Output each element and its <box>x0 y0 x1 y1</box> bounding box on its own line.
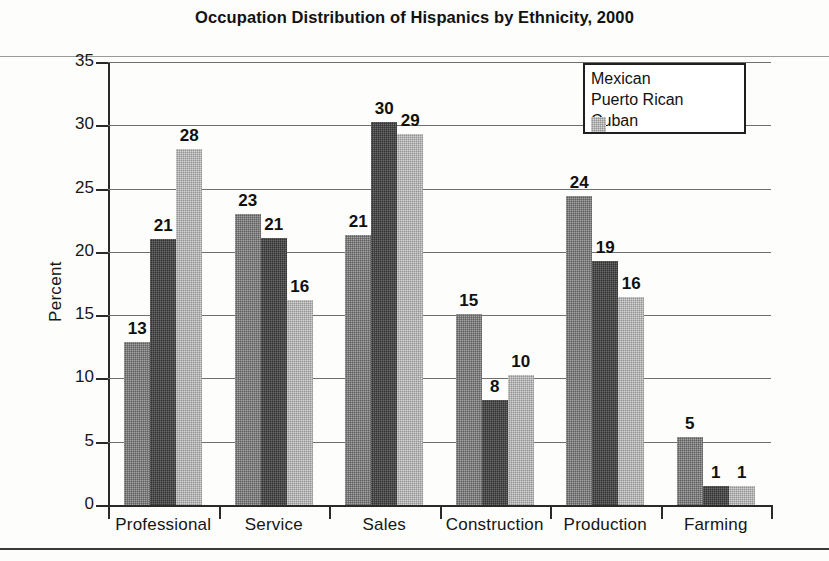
bar-value-label: 15 <box>459 291 478 311</box>
bar-value-label: 10 <box>511 352 530 372</box>
bar-group: 232116 <box>235 62 313 505</box>
y-axis-tick-label: 30 <box>52 114 94 134</box>
bar-value-label: 16 <box>622 274 641 294</box>
bar-value-label: 21 <box>264 215 283 235</box>
x-axis-tick <box>771 505 773 519</box>
x-axis-tick <box>550 505 552 519</box>
bar <box>618 297 644 505</box>
bar <box>482 400 508 505</box>
bar <box>371 122 397 506</box>
x-axis-category-label: Farming <box>684 515 748 535</box>
x-axis-tick <box>440 505 442 519</box>
y-axis-tick-label: 20 <box>52 241 94 261</box>
bar-value-label: 24 <box>570 173 589 193</box>
bar-value-label: 16 <box>290 277 309 297</box>
bar <box>176 149 202 505</box>
x-axis-category-label: Sales <box>362 515 406 535</box>
bar <box>261 238 287 505</box>
bar <box>124 342 150 505</box>
y-axis-tick-label: 10 <box>52 367 94 387</box>
y-axis-tick <box>96 315 108 317</box>
bar <box>729 486 755 505</box>
x-axis-category-label: Professional <box>115 515 211 535</box>
legend-item-label: Mexican <box>591 71 651 87</box>
legend-item: Puerto Rican <box>591 89 739 110</box>
y-axis-tick <box>96 505 108 507</box>
bar-value-label: 23 <box>238 191 257 211</box>
legend-swatch-icon <box>591 117 606 132</box>
bar <box>566 196 592 505</box>
y-axis-tick-label: 0 <box>52 494 94 514</box>
bar <box>397 134 423 505</box>
x-axis-tick <box>329 505 331 519</box>
gridline <box>108 378 771 379</box>
y-axis-tick-label: 35 <box>52 51 94 71</box>
bar <box>287 300 313 505</box>
bar <box>235 214 261 505</box>
bar <box>508 375 534 505</box>
y-axis-tick <box>96 125 108 127</box>
bar-value-label: 1 <box>711 463 720 483</box>
y-axis-title: Percent <box>46 261 66 322</box>
gridline <box>108 252 771 253</box>
x-axis-category-label: Production <box>564 515 647 535</box>
bar-value-label: 29 <box>401 111 420 131</box>
y-axis-tick <box>96 442 108 444</box>
bar-value-label: 19 <box>596 238 615 258</box>
bar-value-label: 21 <box>154 216 173 236</box>
bar-value-label: 21 <box>349 212 368 232</box>
x-axis-category-label: Construction <box>446 515 544 535</box>
x-axis-category-label: Service <box>245 515 303 535</box>
x-axis-tick <box>661 505 663 519</box>
bar <box>592 261 618 505</box>
legend-item: Cuban <box>591 110 739 131</box>
bar-value-label: 1 <box>737 463 746 483</box>
bar-value-label: 13 <box>128 319 147 339</box>
y-axis-tick <box>96 189 108 191</box>
scan-rule-top <box>0 56 829 57</box>
gridline <box>108 442 771 443</box>
bar-value-label: 8 <box>490 377 499 397</box>
x-axis-tick <box>219 505 221 519</box>
bar <box>703 486 729 505</box>
bar-value-label: 30 <box>375 99 394 119</box>
bar-group: 15810 <box>456 62 534 505</box>
bar-group: 213029 <box>345 62 423 505</box>
bar <box>456 314 482 505</box>
bar <box>677 437 703 505</box>
y-axis-tick-label: 25 <box>52 178 94 198</box>
legend-item-label: Puerto Rican <box>591 92 684 108</box>
gridline <box>108 189 771 190</box>
bar-group: 132128 <box>124 62 202 505</box>
bar-value-label: 5 <box>685 414 694 434</box>
y-axis-tick-label: 5 <box>52 431 94 451</box>
bar <box>150 239 176 505</box>
y-axis-line <box>108 62 110 505</box>
y-axis-tick <box>96 62 108 64</box>
chart-legend: MexicanPuerto RicanCuban <box>583 63 746 134</box>
gridline <box>108 315 771 316</box>
chart-title: Occupation Distribution of Hispanics by … <box>0 8 829 27</box>
legend-item: Mexican <box>591 68 739 89</box>
x-axis-tick <box>108 505 110 519</box>
bar <box>345 235 371 505</box>
y-axis-tick <box>96 252 108 254</box>
bar-value-label: 28 <box>180 126 199 146</box>
y-axis-tick <box>96 378 108 380</box>
scan-rule-bottom <box>0 548 829 550</box>
